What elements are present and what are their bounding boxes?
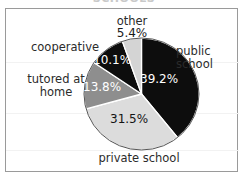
slice-value-cooperative: 10.1% [93,54,133,67]
slice-value-public-school: 39.2% [140,73,186,86]
pie-chart: other 5.4% cooperative 10.1% tutored at … [0,0,245,178]
slice-label-tutored-at-home: tutored at home [21,73,91,99]
slice-value-private-school: 31.5% [110,113,156,126]
slice-value-tutored-at-home: 13.8% [83,81,127,94]
slice-label-private-school: private school [94,152,184,165]
slice-value-other: 5.4% [110,27,154,40]
slice-label-public-school: public school [176,45,234,71]
slice-label-public-line1: public [176,44,211,58]
slice-label-tutored-line2: home [40,85,73,99]
slice-label-tutored-line1: tutored at [27,72,84,86]
chart-page: SCHOOLS other 5.4% cooperative 10.1% tut… [0,0,245,178]
slice-label-public-line2: school [176,57,213,71]
